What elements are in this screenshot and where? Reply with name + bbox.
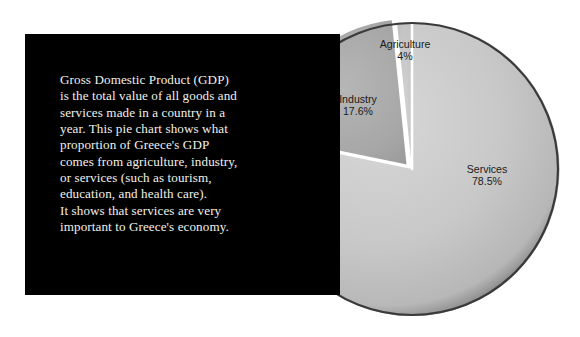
pie-label-industry-name: Industry — [312, 93, 404, 105]
pie-label-services-value: 78.5% — [444, 175, 530, 187]
pie-label-services-name: Services — [444, 163, 530, 175]
pie-label-agriculture-name: Agriculture — [355, 38, 455, 50]
pie-label-industry-value: 17.6% — [312, 105, 404, 117]
pie-label-agriculture: Agriculture 4% — [355, 38, 455, 63]
gdp-pie-chart-figure: Gross Domestic Product (GDP) is the tota… — [0, 0, 580, 337]
caption-panel: Gross Domestic Product (GDP) is the tota… — [25, 34, 340, 295]
pie-label-services: Services 78.5% — [444, 163, 530, 188]
pie-label-industry: Industry 17.6% — [312, 93, 404, 118]
pie-label-agriculture-value: 4% — [355, 50, 455, 62]
caption-body-text: Gross Domestic Product (GDP) is the tota… — [60, 72, 310, 235]
